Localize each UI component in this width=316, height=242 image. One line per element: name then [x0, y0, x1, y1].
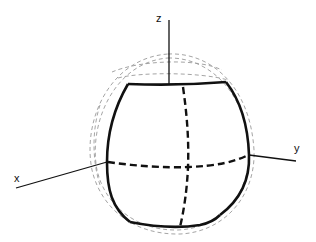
equator-line [108, 155, 248, 167]
x-axis-label: x [14, 172, 20, 184]
meridian-line [180, 87, 188, 227]
right-edge [220, 82, 249, 215]
hidden-lines [108, 87, 248, 227]
reference-sphere-cap [118, 74, 228, 80]
reference-sphere-cap-2 [112, 62, 222, 72]
reference-sphere-left-arc [94, 105, 100, 185]
center-point [186, 165, 189, 168]
deformed-body [107, 82, 249, 227]
y-axis-label: y [294, 142, 300, 154]
deformed-sphere-diagram: z x y [0, 0, 316, 242]
top-edge [128, 82, 226, 85]
bottom-edge [130, 215, 220, 227]
left-edge [107, 84, 130, 222]
y-axis [249, 155, 296, 161]
z-axis-label: z [156, 12, 162, 24]
